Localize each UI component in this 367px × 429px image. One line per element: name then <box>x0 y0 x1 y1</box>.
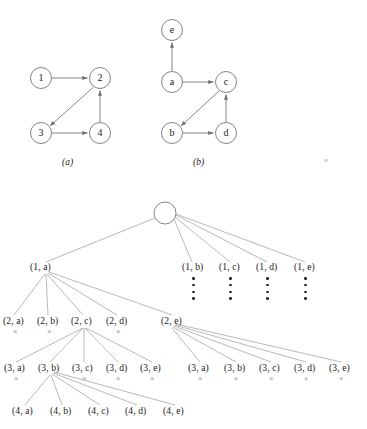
x-mark-3r-d: × <box>304 375 308 383</box>
tree-edge-3b-4e <box>54 372 175 405</box>
figure-canvas: 1 2 3 4 (a) e a c b d (b) (1, a) (1, b) … <box>0 0 367 429</box>
tree-edges <box>14 202 341 405</box>
tree-node-4-d: (4, d) <box>125 406 146 416</box>
scan-artifact-mark <box>324 159 328 162</box>
tree-node-4-a: (4, a) <box>12 406 33 416</box>
x-mark-3l-d: × <box>116 375 120 383</box>
graph-a-node-4-label: 4 <box>95 128 105 138</box>
ellipsis-dots-1c <box>229 277 232 304</box>
graph-b-node-b-label: b <box>167 128 177 138</box>
x-mark-3r-a: × <box>198 375 202 383</box>
tree-node-2-a: (2, a) <box>3 316 24 326</box>
ellipsis-dots-1e <box>304 277 307 304</box>
tree-edge-2e-3d <box>175 325 306 362</box>
tree-node-3r-c: (3, c) <box>259 363 280 373</box>
tree-node-3l-a: (3, a) <box>4 363 25 373</box>
tree-edge-2c-3b <box>50 328 83 362</box>
tree-edge-1a-2e <box>49 272 172 315</box>
tree-node-4-b: (4, b) <box>50 406 71 416</box>
tree-edge-3b-4a <box>25 375 50 405</box>
tree-node-3r-d: (3, d) <box>294 363 315 373</box>
graph-b-node-e-label: e <box>167 25 177 35</box>
tree-edge-root-1e <box>176 214 305 262</box>
x-mark-2-a: × <box>13 328 17 336</box>
tree-node-3r-e: (3, e) <box>329 363 350 373</box>
tree-node-2-c: (2, c) <box>71 316 92 326</box>
tree-node-2-b: (2, b) <box>37 316 58 326</box>
tree-node-4-c: (4, c) <box>88 406 109 416</box>
tree-edge-2e-3c <box>174 326 271 362</box>
graph-b-node-c-label: c <box>221 77 231 87</box>
graph-a-caption: (a) <box>62 158 73 168</box>
tree-node-1-c: (1, c) <box>219 262 240 272</box>
tree-edge-1a-2d <box>48 273 117 315</box>
tree-node-3l-e: (3, e) <box>140 363 161 373</box>
tree-edge-root-1a <box>46 218 155 262</box>
tree-edge-3b-4d <box>53 373 137 405</box>
x-mark-2-d: × <box>116 328 120 336</box>
tree-node-2-e: (2, e) <box>161 316 182 326</box>
graph-a-node-2-label: 2 <box>95 73 105 83</box>
tree-node-4-e: (4, e) <box>163 406 184 416</box>
tree-edge-2e-3a <box>172 328 200 362</box>
tree-edge-1a-2a <box>14 274 45 315</box>
tree-edge-2e-3b <box>173 327 236 362</box>
x-mark-3r-c: × <box>269 375 273 383</box>
tree-root-node <box>154 202 176 224</box>
tree-edge-1a-2c <box>47 274 83 315</box>
graph-b-caption: (b) <box>193 158 204 168</box>
tree-node-1-e: (1, e) <box>294 262 315 272</box>
graph-a-node-1-label: 1 <box>36 73 46 83</box>
graph-b-edge-c-b <box>181 91 219 126</box>
graph-b-node-d-label: d <box>221 128 231 138</box>
tree-node-3l-c: (3, c) <box>72 363 93 373</box>
tree-node-3l-d: (3, d) <box>106 363 127 373</box>
graph-a-edge-2-3 <box>50 88 93 127</box>
x-mark-3l-e: × <box>150 375 154 383</box>
x-mark-3l-c: × <box>82 375 86 383</box>
tree-edge-2c-3d <box>85 328 118 362</box>
x-mark-3r-e: × <box>339 375 343 383</box>
tree-node-1-a: (1, a) <box>30 262 51 272</box>
x-mark-2-b: × <box>47 328 51 336</box>
ellipsis-dots-1d <box>266 277 269 304</box>
tree-node-1-d: (1, d) <box>256 262 277 272</box>
x-mark-3l-a: × <box>14 375 18 383</box>
graph-b-node-a-label: a <box>167 77 177 87</box>
tree-node-3l-b: (3, b) <box>38 363 59 373</box>
ellipsis-dots-1b <box>192 277 195 304</box>
tree-edge-3b-4c <box>52 374 100 405</box>
tree-node-1-b: (1, b) <box>182 262 203 272</box>
tree-node-3r-b: (3, b) <box>224 363 245 373</box>
tree-node-2-d: (2, d) <box>106 316 127 326</box>
graph-a-node-3-label: 3 <box>36 128 46 138</box>
tree-edge-root-1b <box>174 219 192 262</box>
x-mark-3r-b: × <box>234 375 238 383</box>
tree-node-3r-a: (3, a) <box>188 363 209 373</box>
tree-edge-1a-2b <box>46 274 48 315</box>
tree-edge-2e-3e <box>176 324 341 362</box>
